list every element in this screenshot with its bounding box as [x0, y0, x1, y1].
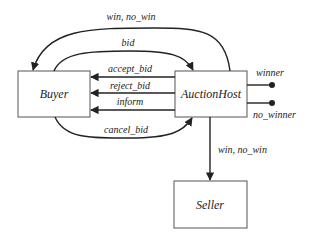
edge-host-to-buyer-accept: accept_bid	[91, 63, 175, 77]
seller-label: Seller	[196, 198, 224, 212]
terminal-label-no-winner: no_winner	[253, 109, 296, 120]
edge-label-accept-bid: accept_bid	[108, 63, 153, 74]
edge-host-to-seller-outcome: win, no_win	[210, 117, 267, 180]
edge-label-bid: bid	[122, 37, 136, 48]
terminal-winner: winner	[247, 67, 284, 88]
auction-host-label: AuctionHost	[180, 87, 242, 101]
edge-host-to-buyer-inform: inform	[91, 96, 175, 110]
seller-node: Seller	[174, 181, 247, 228]
edge-label-seller-win-no-win: win, no_win	[218, 144, 267, 155]
buyer-label: Buyer	[40, 87, 69, 101]
winner-terminal-dot-icon	[269, 82, 275, 88]
terminal-label-winner: winner	[256, 67, 284, 78]
edge-label-inform: inform	[117, 96, 144, 107]
edge-host-to-buyer-reject: reject_bid	[91, 80, 175, 93]
edge-label-cancel-bid: cancel_bid	[104, 124, 149, 135]
terminal-no-winner: no_winner	[247, 100, 296, 120]
buyer-node: Buyer	[18, 71, 90, 117]
no-winner-terminal-dot-icon	[269, 100, 275, 106]
edge-label-win-no-win: win, no_win	[107, 11, 156, 22]
edge-buyer-to-host-cancel: cancel_bid	[55, 117, 192, 138]
diagram-canvas: Buyer AuctionHost Seller win, no_win bid…	[0, 0, 312, 240]
edge-label-reject-bid: reject_bid	[110, 80, 151, 91]
auction-host-node: AuctionHost	[175, 71, 247, 117]
